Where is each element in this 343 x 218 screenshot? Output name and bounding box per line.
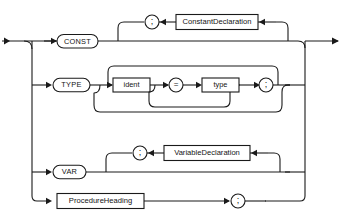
- type-type-hit[interactable]: [202, 76, 240, 94]
- procedure-semicolon-label: ;: [237, 195, 240, 205]
- left-fanout-rail: [24, 41, 52, 204]
- var-keyword-hit[interactable]: [53, 164, 87, 180]
- const-row: CONST ; ConstantDeclaration: [44, 13, 298, 49]
- proc-semi-arrow-icon: [224, 198, 230, 205]
- right-fanin-rail: [265, 41, 305, 201]
- proc-branch-arrow-icon: [46, 198, 52, 205]
- type-ident-hit[interactable]: [113, 76, 151, 94]
- right-corner-const: [298, 41, 305, 48]
- const-arrow-icon: [51, 38, 57, 45]
- procedure-row: ProcedureHeading ;: [57, 192, 266, 210]
- type-branch-arrow-icon: [46, 82, 52, 89]
- var-row: VAR ; VariableDeclaration: [53, 144, 290, 180]
- var-loop-right: [268, 153, 280, 172]
- const-keyword-hit[interactable]: [57, 33, 99, 49]
- eq-arrow-icon: [163, 82, 169, 89]
- variable-declaration-hit[interactable]: [164, 144, 251, 162]
- var-loop-left: [106, 153, 132, 172]
- const-semicolon-label: ;: [151, 16, 154, 26]
- type-row: TYPE ident =: [53, 66, 290, 112]
- const-loop-left: [118, 22, 144, 41]
- const-reverse-arrow-icon-2: [259, 19, 265, 26]
- const-reverse-arrow-icon: [160, 19, 166, 26]
- type-semicolon-label: ;: [265, 79, 268, 89]
- var-branch-arrow-icon: [46, 169, 52, 176]
- right-spine: [265, 41, 305, 201]
- syntax-diagram-canvas: CONST ; ConstantDeclaration: [0, 0, 343, 218]
- constant-declaration-hit[interactable]: [176, 13, 259, 31]
- type-equals-label: =: [174, 80, 179, 89]
- entry-arrow-icon: [4, 38, 10, 45]
- var-reverse-arrow-icon-2: [251, 150, 257, 157]
- exit-track: [305, 38, 339, 45]
- left-corner-const: [24, 41, 32, 49]
- left-spine: [32, 41, 50, 201]
- railroad-diagram: CONST ; ConstantDeclaration: [0, 0, 343, 218]
- const-loop-right: [276, 22, 288, 41]
- var-reverse-arrow-icon: [148, 150, 154, 157]
- type-box-arrow-icon: [196, 82, 202, 89]
- type-keyword-hit[interactable]: [53, 77, 91, 93]
- var-semicolon-label: ;: [139, 147, 142, 157]
- exit-arrow-icon: [332, 38, 339, 45]
- procedure-heading-hit[interactable]: [57, 192, 145, 210]
